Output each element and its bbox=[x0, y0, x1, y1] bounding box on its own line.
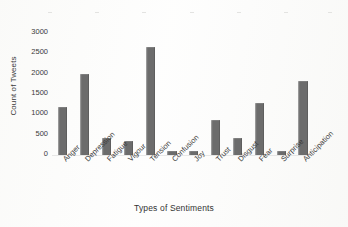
y-axis-title: Count of Tweets bbox=[9, 46, 18, 126]
bar-slot bbox=[298, 33, 307, 155]
bar[interactable] bbox=[80, 74, 89, 155]
scan-artifact-tick bbox=[284, 12, 288, 13]
scan-artifact-tick bbox=[142, 12, 146, 13]
y-tick-label: 1000 bbox=[22, 109, 48, 117]
y-tick-label: 3000 bbox=[22, 28, 48, 36]
bar-slot bbox=[167, 33, 176, 155]
scan-artifact-tick bbox=[237, 12, 241, 13]
bar-slot bbox=[233, 33, 242, 155]
x-tick-label: Confusion bbox=[170, 157, 176, 163]
bar-slot bbox=[277, 33, 286, 155]
scan-artifact-tick bbox=[48, 12, 52, 13]
x-tick-label: Tension bbox=[148, 157, 154, 163]
x-tick-label: Joy bbox=[192, 157, 198, 163]
scan-artifact-tick bbox=[328, 12, 332, 13]
bar[interactable] bbox=[211, 120, 220, 155]
bar[interactable] bbox=[146, 47, 155, 155]
y-tick-label: 2000 bbox=[22, 69, 48, 77]
bar-slot bbox=[58, 33, 67, 155]
bar-slot bbox=[80, 33, 89, 155]
x-tick-label: Fear bbox=[257, 157, 263, 163]
x-tick-label: Trust bbox=[214, 157, 220, 163]
x-tick-label: Disgust bbox=[236, 157, 242, 163]
x-tick-label: Surprise bbox=[279, 157, 285, 163]
bar-slot bbox=[146, 33, 155, 155]
x-tick-label: Fatigue bbox=[105, 157, 111, 163]
y-tick-label: 2500 bbox=[22, 48, 48, 56]
x-axis-title: Types of Sentiments bbox=[0, 203, 348, 213]
y-tick-label: 1500 bbox=[22, 89, 48, 97]
y-tick-label: 0 bbox=[22, 150, 48, 158]
x-tick-label: Vigour bbox=[126, 157, 132, 163]
plot-area bbox=[52, 33, 314, 155]
bar-chart-figure: Count of Tweets 050010001500200025003000… bbox=[0, 0, 348, 227]
x-axis-tick-labels: AngerDepressionFatigueVigourTensionConfu… bbox=[52, 155, 314, 197]
y-tick-label: 500 bbox=[22, 130, 48, 138]
scan-artifact-tick bbox=[95, 12, 99, 13]
scan-artifact-tick bbox=[190, 12, 194, 13]
bar-slot bbox=[211, 33, 220, 155]
x-tick-label: Anticipation bbox=[301, 157, 307, 163]
y-axis-tick-labels: 050010001500200025003000 bbox=[22, 28, 48, 158]
bar[interactable] bbox=[58, 107, 67, 155]
bar-slot bbox=[255, 33, 264, 155]
x-tick-label: Depression bbox=[83, 157, 89, 163]
bar-slot bbox=[124, 33, 133, 155]
x-tick-label: Anger bbox=[61, 157, 67, 163]
